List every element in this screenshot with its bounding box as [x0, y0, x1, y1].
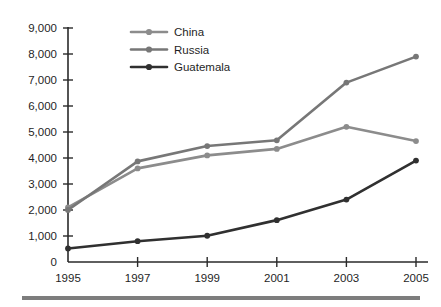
x-tick-label: 2005 [403, 272, 429, 284]
data-point-marker [413, 54, 419, 60]
x-tick-label: 2003 [334, 272, 360, 284]
legend-label: Russia [174, 44, 210, 56]
x-tick-label: 1999 [194, 272, 220, 284]
legend-item-guatemala: Guatemala [131, 61, 231, 73]
data-point-marker [204, 233, 210, 239]
x-tick-label: 1995 [55, 272, 81, 284]
data-point-marker [135, 166, 141, 172]
y-axis-ticks: 01,0002,0003,0004,0005,0006,0007,0008,00… [28, 22, 73, 268]
legend-swatch-marker [146, 46, 152, 52]
legend-label: Guatemala [174, 61, 231, 73]
y-tick-label: 5,000 [28, 126, 57, 138]
data-point-marker [204, 143, 210, 149]
data-point-marker [65, 207, 71, 213]
legend-item-russia: Russia [131, 44, 210, 56]
data-point-marker [135, 238, 141, 244]
line-chart: 01,0002,0003,0004,0005,0006,0007,0008,00… [0, 0, 441, 307]
series-guatemala [65, 158, 419, 252]
x-tick-label: 2001 [264, 272, 290, 284]
legend-swatch-marker [146, 64, 152, 70]
x-tick-label: 1997 [125, 272, 151, 284]
data-point-marker [344, 124, 350, 130]
y-tick-label: 7,000 [28, 74, 57, 86]
series-layer [65, 54, 419, 252]
footer-rule [22, 296, 420, 300]
legend-swatch-marker [146, 29, 152, 35]
y-tick-label: 1,000 [28, 230, 57, 242]
data-point-marker [274, 137, 280, 143]
data-point-marker [274, 146, 280, 152]
legend-item-china: China [131, 26, 205, 38]
data-point-marker [413, 138, 419, 144]
y-tick-label: 3,000 [28, 178, 57, 190]
y-tick-label: 6,000 [28, 100, 57, 112]
y-tick-label: 2,000 [28, 204, 57, 216]
series-line [68, 127, 416, 208]
data-point-marker [344, 197, 350, 203]
x-axis-ticks: 199519971999200120032005 [55, 257, 429, 284]
data-point-marker [204, 153, 210, 159]
data-point-marker [344, 80, 350, 86]
legend-label: China [174, 26, 205, 38]
chart-figure: 01,0002,0003,0004,0005,0006,0007,0008,00… [0, 0, 441, 307]
y-tick-label: 9,000 [28, 22, 57, 34]
y-tick-label: 8,000 [28, 48, 57, 60]
y-tick-label: 4,000 [28, 152, 57, 164]
chart-legend: ChinaRussiaGuatemala [131, 26, 231, 73]
series-line [68, 57, 416, 210]
data-point-marker [135, 158, 141, 164]
series-china [65, 124, 419, 210]
data-point-marker [413, 158, 419, 164]
data-point-marker [274, 217, 280, 223]
data-point-marker [65, 246, 71, 252]
y-tick-label: 0 [51, 256, 57, 268]
